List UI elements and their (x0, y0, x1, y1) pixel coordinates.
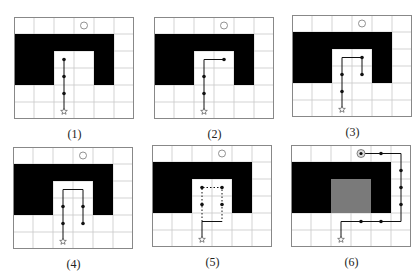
waypoint-dot (62, 58, 66, 62)
panel-caption: (6) (291, 255, 412, 270)
waypoint-dot (200, 203, 204, 207)
waypoint-dot (61, 222, 65, 226)
waypoint-dot (200, 186, 204, 190)
waypoint-dot (220, 186, 224, 190)
waypoint-dot (222, 58, 226, 62)
waypoint-dot (220, 203, 224, 207)
panel-caption: (4) (13, 257, 134, 272)
grid-map (13, 147, 133, 249)
waypoint-dot (61, 205, 65, 209)
waypoint-dot (379, 220, 383, 224)
grid-map (291, 145, 411, 247)
explored-region (331, 179, 371, 213)
waypoint-dot (81, 222, 85, 226)
waypoint-dot (360, 73, 364, 77)
panel-3: (3) (292, 15, 412, 117)
waypoint-dot (340, 90, 344, 94)
panel-5: (5) (152, 145, 272, 247)
panel-caption: (1) (14, 127, 135, 142)
waypoint-dot (81, 205, 85, 209)
waypoint-dot (202, 92, 206, 96)
panel-caption: (5) (152, 255, 273, 270)
waypoint-dot (379, 152, 383, 156)
panel-2: (2) (154, 17, 274, 119)
grid-map (154, 17, 274, 119)
panel-4: (4) (13, 147, 133, 249)
waypoint-dot (340, 73, 344, 77)
panel-caption: (2) (154, 127, 275, 142)
waypoint-dot (360, 56, 364, 60)
waypoint-dot (399, 186, 403, 190)
waypoint-dot (359, 220, 363, 224)
panel-1: (1) (14, 17, 134, 119)
waypoint-dot (399, 169, 403, 173)
waypoint-dot (202, 75, 206, 79)
goal-dot (359, 152, 362, 155)
panel-6: (6) (291, 145, 411, 247)
waypoint-dot (62, 75, 66, 79)
grid-map (292, 15, 412, 117)
waypoint-dot (399, 203, 403, 207)
grid-map (152, 145, 272, 247)
waypoint-dot (62, 92, 66, 96)
grid-map (14, 17, 134, 119)
panel-caption: (3) (292, 125, 413, 140)
